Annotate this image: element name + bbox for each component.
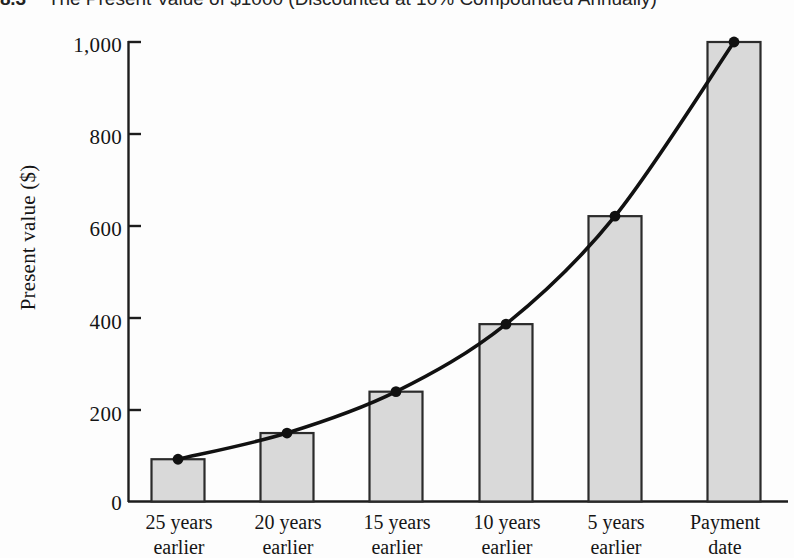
x-category-line-3-0: 10 years [447, 510, 567, 535]
data-point-marker [729, 37, 740, 48]
y-tick-marks [128, 42, 141, 410]
bar [480, 324, 533, 501]
curve-markers [173, 37, 740, 465]
data-point-marker [391, 386, 402, 397]
bar [152, 459, 205, 501]
bar [708, 42, 761, 502]
x-category-label-1: 20 years earlier [228, 510, 348, 558]
x-category-label-3: 10 years earlier [447, 510, 567, 558]
bar [261, 433, 314, 501]
x-category-line-5-0: Payment [665, 510, 785, 535]
x-category-line-2-0: 15 years [337, 510, 457, 535]
x-category-line-3-1: earlier [447, 535, 567, 558]
x-category-label-5: Payment date [665, 510, 785, 558]
bar [370, 392, 423, 502]
bar [589, 216, 642, 501]
x-category-line-4-1: earlier [556, 535, 676, 558]
x-category-line-0-0: 25 years [119, 510, 239, 535]
x-category-label-4: 5 years earlier [556, 510, 676, 558]
data-point-marker [173, 454, 184, 465]
x-category-line-5-1: date [665, 535, 785, 558]
x-category-label-0: 25 years earlier [119, 510, 239, 558]
data-point-marker [610, 211, 621, 222]
data-point-marker [501, 319, 512, 330]
discount-curve [178, 42, 734, 459]
bar-group [152, 42, 761, 502]
x-category-line-0-1: earlier [119, 535, 239, 558]
x-category-line-1-1: earlier [228, 535, 348, 558]
x-category-line-4-0: 5 years [556, 510, 676, 535]
x-category-line-1-0: 20 years [228, 510, 348, 535]
x-category-label-2: 15 years earlier [337, 510, 457, 558]
x-category-line-2-1: earlier [337, 535, 457, 558]
data-point-marker [282, 428, 293, 439]
